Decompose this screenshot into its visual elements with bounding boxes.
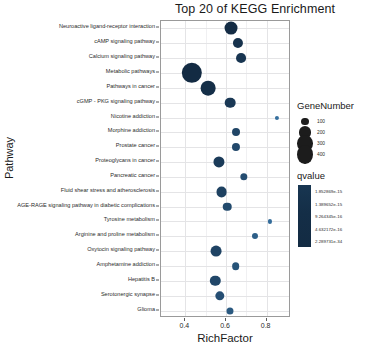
y-axis-tick-mark (156, 309, 159, 310)
qvalue-legend-tick (311, 241, 314, 242)
gridline-horizontal (161, 236, 289, 237)
y-axis-tick-label: Morphine addiction (108, 129, 155, 135)
qvalue-legend-tick (311, 216, 314, 217)
qvalue-legend-label: 9.264345e-16 (315, 214, 342, 219)
gridline-horizontal (161, 311, 289, 312)
chart-title: Top 20 of KEGG Enrichment (160, 2, 350, 16)
data-point (236, 53, 246, 63)
y-axis-tick-mark (156, 265, 159, 266)
x-axis-tick-mark (266, 318, 267, 321)
qvalue-colorbar-wrap: 1.852869e-151.389652e-159.264345e-164.63… (297, 185, 367, 247)
kegg-enrichment-bubble-plot: Top 20 of KEGG Enrichment Pathway Neuroa… (0, 0, 367, 358)
qvalue-legend-label: 2.289731e-34 (315, 239, 342, 244)
y-axis-tick-label: Nicotine addiction (111, 114, 155, 120)
data-point (215, 291, 224, 300)
gridline-vertical-minor (246, 21, 247, 316)
qvalue-legend-label: 4.632172e-16 (315, 226, 342, 231)
gridline-horizontal (161, 251, 289, 252)
data-point (252, 233, 258, 239)
y-axis-tick-label: AGE-RAGE signaling pathway in diabetic c… (17, 203, 155, 209)
legend-dot-icon (301, 118, 308, 125)
data-point (211, 246, 222, 257)
y-axis-tick-label: Oxytocin signaling pathway (87, 247, 155, 253)
gene-number-legend: GeneNumber 100200300400 (297, 100, 367, 160)
data-point (225, 22, 238, 35)
x-axis-tick-label: 0.6 (220, 322, 230, 329)
y-axis-tick-label: Amphetamine addiction (97, 262, 155, 268)
y-axis-tick-label: Calcium signaling pathway (89, 54, 155, 60)
gridline-horizontal (161, 43, 289, 44)
y-axis-tick-mark (156, 250, 159, 251)
data-point (182, 63, 202, 83)
gene-number-legend-title: GeneNumber (297, 100, 367, 111)
y-axis-tick-label: cGMP - PKG signaling pathway (77, 99, 155, 105)
qvalue-legend-tick (311, 191, 314, 192)
y-axis-tick-label: Proteoglycans in cancer (95, 158, 155, 164)
y-axis-tick-label: Pancreatic cancer (110, 173, 155, 179)
x-axis-tick-label: 0.8 (261, 322, 271, 329)
y-axis-labels: Neuroactive ligand-receptor interactionc… (0, 20, 155, 317)
y-axis-tick-mark (156, 161, 159, 162)
gridline-horizontal (161, 296, 289, 297)
legend-dot-icon (297, 145, 313, 165)
y-axis-tick-label: Glioma (137, 307, 155, 313)
y-axis-tick-mark (156, 235, 159, 236)
x-axis-tick-label: 0.4 (180, 322, 190, 329)
data-point (216, 186, 227, 197)
x-axis-tick-mark (184, 318, 185, 321)
gridline-vertical (267, 21, 268, 316)
y-axis-tick-mark (156, 27, 159, 28)
y-axis-tick-mark (156, 220, 159, 221)
data-point (233, 38, 243, 48)
qvalue-legend-tick (311, 203, 314, 204)
data-point (213, 157, 224, 168)
data-point (223, 202, 232, 211)
data-point (268, 219, 272, 223)
y-axis-tick-label: Hepatitis B (128, 277, 155, 283)
y-axis-tick-label: Prostate cancer (116, 143, 155, 149)
data-point (232, 128, 240, 136)
gene-number-legend-label: 200 (317, 130, 325, 135)
gridline-vertical-minor (206, 21, 207, 316)
gene-number-legend-key (297, 145, 313, 165)
qvalue-legend-label: 1.389652e-15 (315, 201, 342, 206)
gene-number-legend-items: 100200300400 (297, 116, 367, 160)
y-axis-tick-mark (156, 175, 159, 176)
y-axis-tick-mark (156, 71, 159, 72)
data-point (226, 307, 233, 314)
gridline-horizontal (161, 177, 289, 178)
y-axis-tick-label: Neuroactive ligand-receptor interaction (59, 25, 155, 31)
plot-panel (160, 20, 290, 317)
gridline-horizontal (161, 58, 289, 59)
qvalue-colorbar (298, 185, 311, 247)
qvalue-legend-label: 1.852869e-15 (315, 189, 342, 194)
data-point (201, 80, 216, 95)
data-point (275, 115, 279, 119)
y-axis-tick-mark (156, 205, 159, 206)
y-axis-tick-mark (156, 131, 159, 132)
y-axis-tick-mark (156, 190, 159, 191)
y-axis-tick-label: Arginine and proline metabolism (75, 233, 155, 239)
y-axis-tick-mark (156, 146, 159, 147)
y-axis-tick-label: cAMP signaling pathway (94, 39, 155, 45)
data-point (210, 276, 220, 286)
gene-number-legend-item: 400 (297, 149, 367, 160)
y-axis-tick-label: Pathways in cancer (106, 84, 155, 90)
data-point (232, 262, 240, 270)
gridline-horizontal (161, 162, 289, 163)
gene-number-legend-key (297, 118, 313, 125)
y-axis-tick-mark (156, 116, 159, 117)
y-axis-tick-mark (156, 57, 159, 58)
gridline-horizontal (161, 147, 289, 148)
gene-number-legend-label: 100 (317, 119, 325, 124)
y-axis-tick-mark (156, 86, 159, 87)
y-axis-tick-label: Metabolic pathways (106, 69, 155, 75)
qvalue-legend: qvalue 1.852869e-151.389652e-159.264345e… (297, 170, 367, 247)
gene-number-legend-label: 400 (317, 152, 325, 157)
qvalue-legend-title: qvalue (297, 170, 367, 181)
gridline-horizontal (161, 118, 289, 119)
gridline-horizontal (161, 132, 289, 133)
y-axis-tick-mark (156, 279, 159, 280)
y-axis-tick-mark (156, 294, 159, 295)
gridline-horizontal (161, 73, 289, 74)
